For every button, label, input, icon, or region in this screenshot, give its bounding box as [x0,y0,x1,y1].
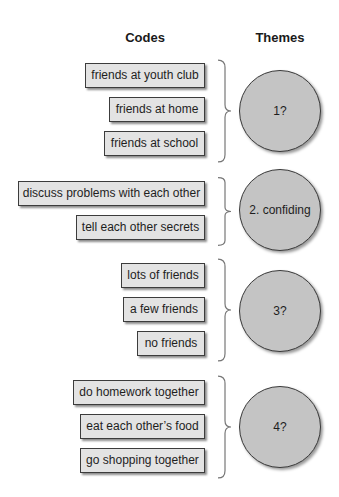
code-box: friends at home [109,97,205,122]
theme-label: 1? [273,104,286,118]
curly-brace-icon [215,177,233,246]
codes-header: Codes [125,30,165,45]
code-box: discuss problems with each other [18,181,205,206]
code-box: eat each other’s food [80,414,205,439]
curly-brace-icon [215,59,233,163]
curly-brace-icon [215,258,233,362]
code-box: friends at youth club [85,63,205,88]
code-box: go shopping together [80,448,205,473]
theme-label: 2. confiding [249,203,310,217]
themes-header: Themes [255,30,304,45]
theme-label: 4? [273,420,286,434]
code-box: do homework together [73,380,205,405]
code-box: lots of friends [121,263,205,288]
code-box: friends at school [104,131,205,156]
theme-circle: 4? [239,386,321,468]
theme-label: 3? [273,304,286,318]
theme-circle: 3? [239,270,321,352]
curly-brace-icon [215,375,233,479]
code-box: a few friends [123,297,205,322]
code-box: tell each other secrets [76,215,205,240]
code-box: no friends [137,331,205,356]
theme-circle: 1? [239,70,321,152]
theme-circle: 2. confiding [239,169,321,251]
